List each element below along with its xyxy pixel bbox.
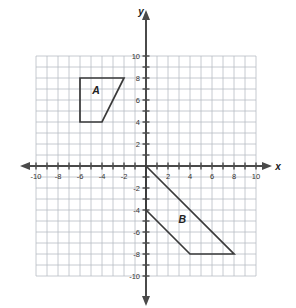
- x-tick-label: 4: [188, 172, 192, 181]
- y-tick-label: 6: [136, 96, 140, 105]
- x-tick-label: 2: [166, 172, 170, 181]
- x-tick-label: -6: [77, 172, 84, 181]
- coordinate-plane-figure: -10-8-6-4-2246810108642-2-4-6-8-10 x y A…: [0, 0, 296, 308]
- y-tick-label: -6: [133, 228, 140, 237]
- y-tick-label: -8: [133, 250, 140, 259]
- y-tick-label: 4: [136, 118, 140, 127]
- x-tick-label: -8: [55, 172, 62, 181]
- y-tick-label: 2: [136, 140, 140, 149]
- y-tick-label: 10: [132, 52, 140, 61]
- x-axis-label: x: [274, 161, 281, 172]
- x-tick-label: -2: [121, 172, 128, 181]
- x-tick-label: 10: [252, 172, 260, 181]
- shape-label-b: B: [179, 213, 187, 225]
- y-tick-label: -2: [133, 184, 140, 193]
- x-tick-label: -4: [99, 172, 106, 181]
- x-tick-label: 8: [232, 172, 236, 181]
- coordinate-grid-svg: -10-8-6-4-2246810108642-2-4-6-8-10 x y A…: [0, 0, 296, 308]
- y-tick-label: 8: [136, 74, 140, 83]
- y-tick-label: -4: [133, 206, 140, 215]
- figure-background: [0, 0, 296, 308]
- x-tick-label: -10: [31, 172, 42, 181]
- y-axis-label: y: [137, 6, 144, 17]
- y-tick-label: -10: [129, 272, 140, 281]
- x-tick-label: 6: [210, 172, 214, 181]
- shape-label-a: A: [91, 84, 100, 96]
